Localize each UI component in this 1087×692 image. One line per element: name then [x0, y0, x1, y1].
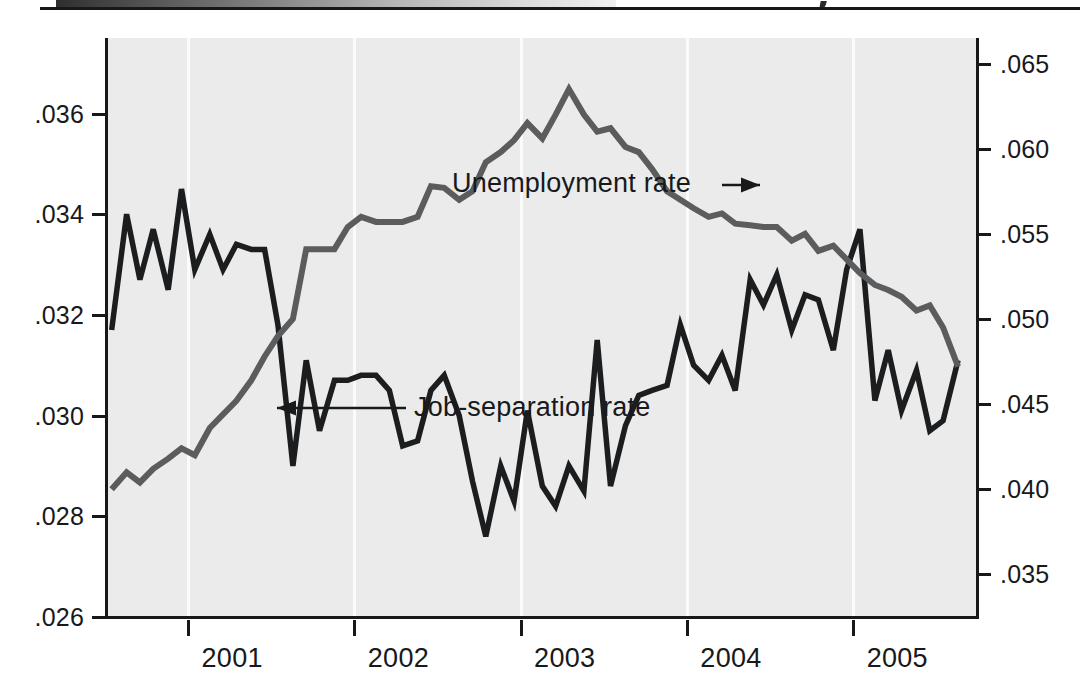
figure-chart: .036.034.032.030.028.026 .065.060.055.05… — [0, 0, 1087, 692]
series-line-job-separation-rate — [112, 189, 958, 536]
series-line-unemployment-rate — [112, 89, 958, 489]
annotation-job-separation-rate: Job-separation rate — [414, 392, 650, 423]
arrow-unemployment-head — [741, 178, 760, 193]
series-lines — [0, 0, 1087, 692]
annotation-unemployment-rate: Unemployment rate — [452, 168, 691, 199]
